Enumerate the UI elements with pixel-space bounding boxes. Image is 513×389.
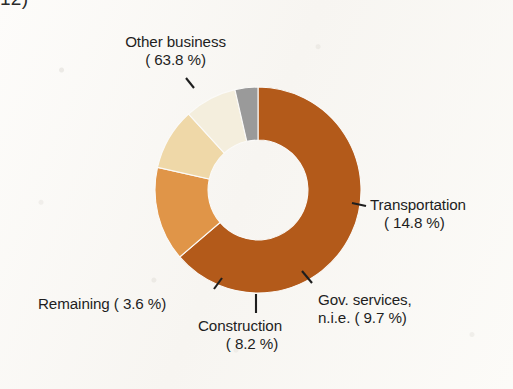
slice-label-gov-services-value: n.i.e. ( 9.7 %) — [318, 309, 412, 327]
slice-label-construction-name: Construction — [198, 317, 282, 334]
slice-label-gov-services-name: Gov. services, — [318, 291, 412, 308]
slice-label-other-business-value: ( 63.8 %) — [88, 51, 263, 69]
slice-label-construction-value: ( 8.2 %) — [175, 335, 305, 353]
chart-page: 12) Other business ( 63.8 %) Transportat… — [0, 0, 513, 389]
slice-label-other-business: Other business ( 63.8 %) — [88, 33, 263, 68]
slice-label-transportation: Transportation ( 14.8 %) — [370, 196, 466, 231]
slice-label-construction: Construction ( 8.2 %) — [175, 317, 305, 352]
slice-label-remaining: Remaining ( 3.6 %) — [38, 295, 166, 313]
slice-label-transportation-name: Transportation — [370, 196, 466, 213]
slice-label-other-business-name: Other business — [125, 33, 226, 50]
slice-label-transportation-value: ( 14.8 %) — [370, 214, 466, 232]
slice-label-gov-services: Gov. services, n.i.e. ( 9.7 %) — [318, 291, 412, 326]
slice-label-remaining-name: Remaining ( 3.6 %) — [38, 295, 166, 312]
leader-line-other-business — [186, 78, 194, 88]
donut-slice-group — [155, 87, 361, 293]
